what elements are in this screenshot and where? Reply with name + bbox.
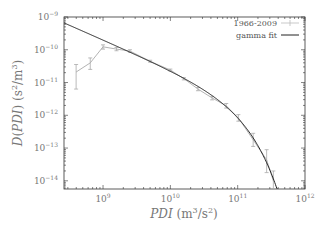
legend-label-data: 1966-2009 bbox=[234, 19, 277, 28]
chart: 10910101011101210−910−1010−1110−1210−131… bbox=[0, 0, 327, 226]
y-axis-label: D(PDI) (s2/m3) bbox=[10, 60, 25, 147]
y-tick-label: 10−14 bbox=[34, 174, 58, 186]
y-tick-label: 10−12 bbox=[34, 108, 58, 120]
legend-label-fit: gamma fit bbox=[236, 31, 278, 40]
x-tick-label: 1012 bbox=[295, 192, 314, 204]
y-tick-label: 10−10 bbox=[34, 43, 58, 55]
x-axis-label: PDI (m3/s2) bbox=[149, 206, 217, 221]
x-tick-label: 109 bbox=[95, 192, 110, 204]
y-tick-label: 10−9 bbox=[38, 10, 58, 22]
y-tick-label: 10−13 bbox=[34, 141, 58, 153]
gamma-fit-line bbox=[64, 23, 277, 189]
x-tick-label: 1010 bbox=[161, 192, 180, 204]
y-tick-label: 10−11 bbox=[34, 76, 58, 88]
data-series-line bbox=[76, 47, 273, 181]
x-tick-label: 1011 bbox=[228, 192, 247, 204]
plot-frame bbox=[64, 17, 305, 189]
